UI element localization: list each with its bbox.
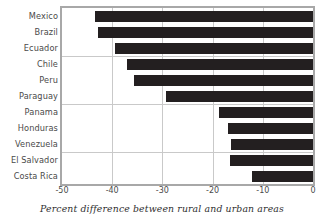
x-axis: -50-40-30-20-100 <box>0 186 324 200</box>
category-label: Venezuela <box>0 140 58 149</box>
category-label: Panama <box>0 108 58 117</box>
x-tick-label: -40 <box>92 186 132 196</box>
category-label: Paraguay <box>0 92 58 101</box>
bar <box>252 171 313 182</box>
bar <box>166 91 313 102</box>
category-label: Brazil <box>0 28 58 37</box>
bar <box>230 155 313 166</box>
x-tick-label: 0 <box>293 186 324 196</box>
x-tick-label: -10 <box>243 186 283 196</box>
bar <box>95 11 313 22</box>
plot-area <box>62 8 313 184</box>
x-tick-label: -50 <box>42 186 82 196</box>
category-axis: MexicoBrazilEcuadorChilePeruParaguayPana… <box>0 8 58 184</box>
category-label: Mexico <box>0 12 58 21</box>
gridline-horizontal <box>62 152 313 153</box>
category-label: El Salvador <box>0 156 58 165</box>
x-tick-label: -20 <box>193 186 233 196</box>
category-label: Costa Rica <box>0 172 58 181</box>
category-label: Peru <box>0 76 58 85</box>
category-label: Ecuador <box>0 44 58 53</box>
bar <box>219 107 313 118</box>
bar <box>228 123 313 134</box>
x-tick-label: -30 <box>142 186 182 196</box>
bar <box>134 75 313 86</box>
bar-chart: MexicoBrazilEcuadorChilePeruParaguayPana… <box>0 0 324 221</box>
gridline-horizontal <box>62 104 313 105</box>
gridline-horizontal <box>62 56 313 57</box>
bar <box>127 59 313 70</box>
category-label: Chile <box>0 60 58 69</box>
bar <box>115 43 313 54</box>
category-label: Honduras <box>0 124 58 133</box>
bar <box>231 139 313 150</box>
bar <box>98 27 313 38</box>
x-axis-title: Percent difference between rural and urb… <box>0 203 324 215</box>
